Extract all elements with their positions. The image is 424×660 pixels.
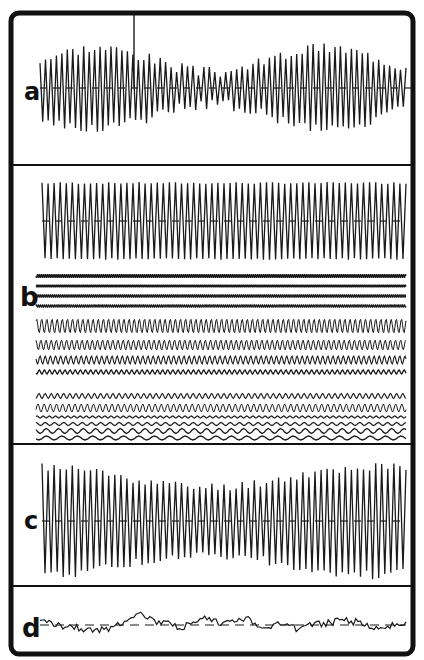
waveform-b-component [36, 423, 406, 426]
panel-a: a [24, 14, 411, 132]
panel-d: d [22, 612, 406, 643]
waveform-b-component [36, 285, 406, 286]
waveform-b-component [36, 436, 406, 440]
panel-label-a: a [24, 78, 40, 106]
waveform-b-component [36, 370, 406, 374]
waveform-b-component [36, 356, 406, 364]
panel-b: b [20, 182, 406, 440]
outer-frame [11, 13, 413, 654]
waveform-b-component [36, 416, 406, 418]
waveform-b-component [36, 340, 406, 350]
waveform-d [40, 612, 406, 633]
waveform-b-component [36, 295, 406, 298]
waveform-b-component [36, 319, 406, 332]
waveform-b-component [36, 429, 406, 434]
panel-label-d: d [22, 613, 41, 643]
panel-label-c: c [24, 507, 38, 535]
panel-c: c [24, 463, 406, 579]
waveform-b-component [36, 404, 406, 412]
waveform-b-component [36, 394, 406, 399]
waveform-b-component [36, 275, 406, 278]
waveform-b-component [36, 305, 406, 307]
figure-canvas: a b c d [0, 0, 424, 660]
